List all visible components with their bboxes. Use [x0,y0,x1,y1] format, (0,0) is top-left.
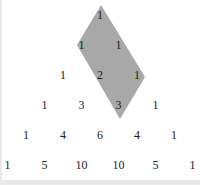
triangle-entry: 3 [116,98,122,113]
triangle-entry: 6 [97,128,103,143]
triangle-entry: 5 [42,158,48,173]
triangle-entry: 10 [76,158,88,173]
triangle-entry: 1 [190,158,196,173]
triangle-entry: 1 [42,98,48,113]
triangle-entry: 1 [5,158,11,173]
diagram-canvas: 11112113311464115101051 [2,0,200,180]
highlight-parallelogram [2,0,200,185]
triangle-entry: 1 [134,68,140,83]
triangle-entry: 5 [153,158,159,173]
triangle-entry: 1 [116,38,122,53]
triangle-entry: 10 [113,158,125,173]
triangle-entry: 1 [153,98,159,113]
triangle-entry: 4 [60,128,66,143]
triangle-entry: 4 [134,128,140,143]
triangle-entry: 2 [97,68,103,83]
triangle-entry: 1 [23,128,29,143]
triangle-entry: 1 [79,38,85,53]
triangle-entry: 1 [171,128,177,143]
triangle-entry: 1 [60,68,66,83]
triangle-entry: 3 [79,98,85,113]
triangle-entry: 1 [97,8,103,23]
